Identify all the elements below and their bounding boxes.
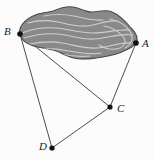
point-c-dot[interactable] xyxy=(107,104,112,109)
point-d-dot[interactable] xyxy=(49,145,54,150)
point-a-dot[interactable] xyxy=(133,40,139,46)
diagram-canvas xyxy=(0,0,154,160)
point-label-c: C xyxy=(117,103,124,114)
geometry-figure: B A C D xyxy=(0,0,154,160)
segment-cd xyxy=(52,107,110,148)
point-label-b: B xyxy=(4,26,11,37)
point-label-a: A xyxy=(142,38,149,49)
shaded-lake-region xyxy=(20,7,138,59)
point-b-dot[interactable] xyxy=(17,31,23,37)
segment-bd xyxy=(20,34,52,148)
point-label-d: D xyxy=(39,141,47,152)
